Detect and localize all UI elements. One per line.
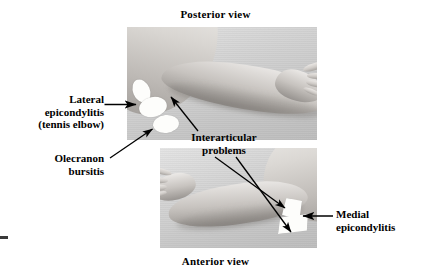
label-line: epicondylitis [18, 106, 104, 119]
label-line: bursitis [14, 165, 104, 178]
caption-anterior-view: Anterior view [0, 255, 431, 267]
label-line: Lateral [18, 93, 104, 106]
label-olecranon-bursitis: Olecranon bursitis [14, 152, 104, 177]
label-line: Olecranon [14, 152, 104, 165]
label-interarticular-problems: Interarticular problems [172, 131, 276, 156]
label-line: epicondylitis [336, 221, 430, 234]
photo-panel-posterior [127, 27, 317, 140]
label-line: (tennis elbow) [18, 118, 104, 131]
figure-canvas: Posterior view Anterior view Lateral epi… [0, 0, 431, 276]
label-lateral-epicondylitis: Lateral epicondylitis (tennis elbow) [18, 93, 104, 131]
label-line: Medial [336, 208, 430, 221]
caption-posterior-view: Posterior view [0, 8, 431, 20]
label-line: problems [172, 144, 276, 157]
margin-tick-mark [0, 236, 8, 239]
photo-panel-anterior [160, 148, 317, 248]
label-line: Interarticular [172, 131, 276, 144]
label-medial-epicondylitis: Medial epicondylitis [336, 208, 430, 233]
